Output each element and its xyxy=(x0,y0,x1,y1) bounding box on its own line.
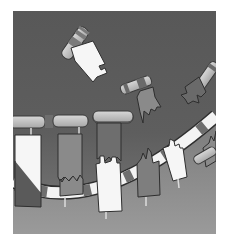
hanging-flag-white-left xyxy=(15,128,41,207)
band-flag-white-center xyxy=(96,156,122,219)
hanging-flag-gray xyxy=(58,127,82,182)
illustration xyxy=(13,11,216,234)
rod-center xyxy=(93,111,133,122)
illustration-frame xyxy=(13,11,216,234)
